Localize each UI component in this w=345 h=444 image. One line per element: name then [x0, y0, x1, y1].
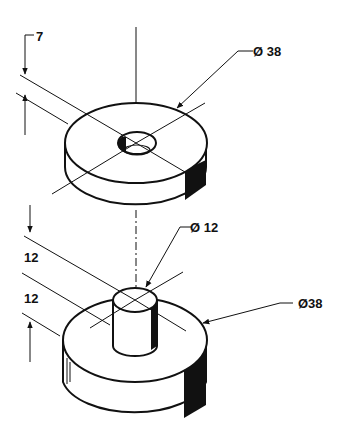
label-outer-diameter-top: Ø 38	[253, 44, 281, 59]
dimension-thickness-7: 7	[25, 29, 43, 135]
label-pin-diameter: Ø 12	[190, 220, 218, 235]
dimension-outer-diameter-top: Ø 38	[177, 44, 281, 108]
washer	[16, 27, 207, 204]
stepped-pin	[22, 236, 207, 418]
dimension-heights: 12 12	[24, 250, 38, 362]
dimension-pin-diameter: Ø 12	[146, 220, 218, 287]
label-thickness: 7	[36, 29, 43, 44]
label-base-height: 12	[24, 291, 38, 306]
technical-drawing: 7 Ø 38 12 12 Ø 12	[0, 0, 345, 444]
label-pin-height: 12	[24, 250, 38, 265]
dimension-base-diameter: Ø38	[203, 296, 323, 323]
label-base-diameter: Ø38	[298, 296, 323, 311]
